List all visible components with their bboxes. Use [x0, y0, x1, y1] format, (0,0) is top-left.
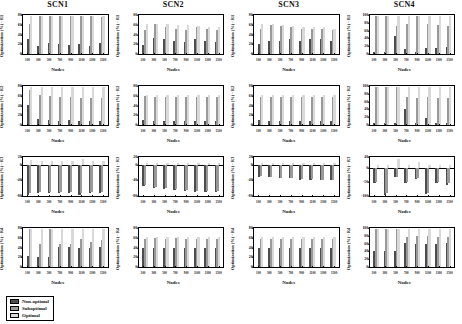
x-axis-tick-mark — [76, 53, 87, 55]
bar-group — [412, 15, 422, 54]
x-axis-tick-label: 1500 — [98, 58, 109, 62]
x-axis-tick-label: 1500 — [213, 58, 224, 62]
x-axis-tick-label: 900 — [65, 129, 76, 133]
x-axis-tick-mark — [159, 53, 170, 55]
x-axis-tick-label: 300 — [33, 58, 44, 62]
x-axis-tick-mark — [390, 266, 401, 268]
plot-area: 020406080100 — [369, 227, 456, 268]
bar-optimal — [408, 16, 410, 54]
x-axis-tick-mark — [65, 124, 76, 126]
x-axis-tick-marks — [138, 53, 225, 55]
x-axis-tick-mark — [87, 266, 98, 268]
bar-optimal — [51, 87, 53, 125]
plot-area: -80-40020 — [138, 156, 225, 197]
x-axis-tick-mark — [390, 124, 401, 126]
x-axis-tick-label: 100 — [369, 200, 380, 204]
x-axis-tick-mark — [390, 195, 401, 197]
bar-optimal — [218, 237, 220, 267]
bar-optimal — [428, 165, 430, 168]
x-axis-tick-label: 700 — [54, 58, 65, 62]
bar-group — [276, 15, 286, 54]
bar-group — [286, 228, 296, 267]
x-axis-tick-label: 700 — [54, 271, 65, 275]
x-axis-tick-label: 1500 — [213, 200, 224, 204]
x-axis-tick-mark — [202, 266, 213, 268]
bar-suboptimal — [260, 165, 262, 176]
x-axis-tick-label: 1300 — [87, 58, 98, 62]
bar-optimal — [218, 27, 220, 54]
x-axis-tick-mark — [307, 53, 318, 55]
bar-group — [212, 15, 222, 54]
y-axis-label: Optimization (%) - R4 — [0, 226, 4, 272]
x-axis-tick-label: 100 — [138, 200, 149, 204]
bar-optimal — [302, 237, 304, 267]
x-axis-tick-mark — [170, 266, 181, 268]
x-axis-tick-label: 700 — [54, 129, 65, 133]
panel-title: SCN3 — [231, 0, 347, 9]
bar-optimal — [323, 163, 325, 165]
x-axis-tick-mark — [329, 266, 340, 268]
x-axis-tick-mark — [369, 266, 380, 268]
bar-optimal — [61, 161, 63, 165]
x-axis-tick-label: 500 — [159, 271, 170, 275]
bar-group — [327, 228, 337, 267]
bar-optimal — [82, 229, 84, 267]
x-axis-tick-mark — [33, 53, 44, 55]
x-axis-tick-label: 700 — [285, 271, 296, 275]
bar-group — [201, 228, 211, 267]
chart-panel: Optimization (%) - R3-80-400201003005007… — [116, 142, 232, 213]
bar-groups — [23, 157, 108, 196]
bar-groups — [139, 157, 224, 196]
bar-group — [86, 86, 96, 125]
chart-panel: Optimization (%) - R20204060801003005007… — [231, 71, 347, 142]
bar-group — [76, 228, 86, 267]
bar-group — [65, 228, 75, 267]
x-axis-tick-mark — [170, 124, 181, 126]
x-axis-tick-mark — [192, 53, 203, 55]
chart-panel: SCN1Optimization (%) - R1020406080100300… — [0, 0, 116, 71]
x-axis-tick-mark — [202, 53, 213, 55]
bar-optimal — [82, 87, 84, 125]
x-axis-tick-mark — [285, 195, 296, 197]
bar-optimal — [92, 16, 94, 54]
x-axis-tick-label: 1500 — [98, 129, 109, 133]
x-axis-tick-mark — [22, 53, 33, 55]
y-axis-label: Optimization (%) - R2 — [230, 84, 235, 130]
x-axis-tick-mark — [87, 195, 98, 197]
bar-group — [265, 15, 275, 54]
x-axis-tick-label: 1100 — [192, 58, 203, 62]
bar-optimal — [397, 87, 399, 125]
x-axis-tick-labels: 100300500700900110013001500 — [253, 200, 340, 204]
x-axis-tick-marks — [253, 266, 340, 268]
x-axis-tick-label: 100 — [138, 58, 149, 62]
x-axis-tick-label: 1300 — [318, 58, 329, 62]
x-axis-tick-mark — [275, 53, 286, 55]
bar-suboptimal — [375, 168, 377, 181]
bar-optimal — [333, 237, 335, 267]
x-axis-tick-mark — [87, 124, 98, 126]
x-axis-tick-label: 500 — [159, 200, 170, 204]
x-axis-tick-label: 1100 — [192, 129, 203, 133]
bar-group — [201, 86, 211, 125]
bar-optimal — [261, 163, 263, 165]
bar-group — [96, 157, 106, 196]
x-axis-tick-mark — [98, 53, 109, 55]
x-axis-tick-label: 700 — [285, 200, 296, 204]
bar-group — [381, 15, 391, 54]
bar-optimal — [272, 237, 274, 267]
bar-optimal — [292, 95, 294, 125]
bar-optimal — [166, 237, 168, 267]
x-axis-tick-mark — [159, 124, 170, 126]
x-axis-tick-label: 700 — [401, 129, 412, 133]
x-axis-tick-label: 1500 — [329, 58, 340, 62]
bar-group — [286, 86, 296, 125]
x-axis-tick-mark — [369, 53, 380, 55]
x-axis-tick-labels: 100300500700900110013001500 — [22, 129, 109, 133]
bar-group — [371, 228, 381, 267]
bar-group — [327, 157, 337, 196]
bar-group — [150, 15, 160, 54]
x-axis-tick-mark — [202, 124, 213, 126]
bar-optimal — [408, 229, 410, 267]
x-axis-tick-label: 500 — [159, 129, 170, 133]
bar-optimal — [197, 163, 199, 165]
